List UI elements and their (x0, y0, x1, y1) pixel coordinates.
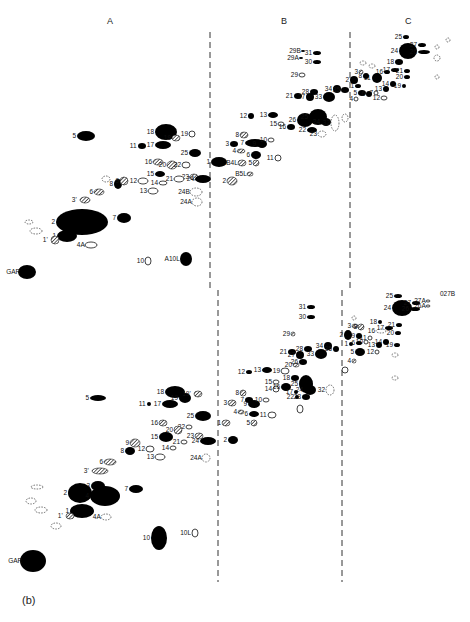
spot-label: 15 (147, 170, 155, 177)
spot-5-solid (355, 348, 365, 356)
spot-label: 26 (289, 116, 297, 123)
spot-unlabeled-dashed (35, 507, 47, 513)
spot-19-open (189, 131, 195, 137)
spot-12-open (146, 446, 154, 452)
spot-label: 20 (159, 161, 167, 168)
spot-label: 16 (151, 419, 159, 426)
spot-label: 15 (265, 378, 273, 385)
section-label-b: B (281, 16, 287, 26)
spot-20-solid (395, 331, 401, 335)
spot-GAR-solid (20, 550, 46, 572)
spot-label: 25 (181, 149, 189, 156)
spot-25-solid (394, 294, 402, 298)
spot-label: 32 (323, 119, 331, 126)
spot-label: 26A (414, 302, 426, 309)
spot-10-open (268, 138, 274, 142)
spot-label: 30 (305, 58, 313, 65)
spot-label: 12 (240, 112, 248, 119)
spot-13-solid (383, 86, 389, 92)
spot-unlabeled-dashed (392, 353, 398, 357)
spot-25-solid (189, 149, 201, 157)
spot-30-solid (307, 315, 315, 319)
spot-4-hatched (237, 149, 245, 153)
spot-label: 5 (350, 348, 354, 355)
spot-label: 27 (410, 41, 418, 48)
spot-label: 20 (387, 329, 395, 336)
spot-B5L-hatched (247, 172, 253, 176)
spot-label: 14 (265, 385, 273, 392)
spot-label: 1' (58, 512, 63, 519)
spot-3-hatched (80, 197, 90, 203)
gel-map-figure: A B C 5181919111725162022152324211214132… (0, 0, 470, 622)
spot-10L-open (192, 529, 198, 537)
spot-13-solid (376, 342, 382, 348)
spot-label: 25 (395, 33, 403, 40)
spot-label: 5 (248, 159, 252, 166)
spot-1-solid (355, 84, 361, 88)
spot-17-solid (155, 141, 171, 149)
spot-label: 12 (130, 177, 138, 184)
spot-label: 20 (396, 73, 404, 80)
spot-24-solid (195, 175, 211, 183)
spot-4-hatched (352, 359, 356, 363)
spot-32-dashed (331, 115, 339, 131)
spot-label: 31 (299, 303, 307, 310)
spot-21-solid (396, 323, 402, 327)
spot-21-open (181, 440, 187, 444)
spot-29-hatched (291, 332, 295, 336)
spot-14-open (159, 181, 167, 185)
spot-27A-open (426, 300, 430, 302)
spot-label: 17 (147, 141, 155, 148)
spot-16-solid (287, 124, 295, 130)
spot-label: 3 (354, 68, 358, 75)
spot-label: 13 (368, 341, 376, 348)
spot-4A-open (85, 242, 97, 248)
spot-label: 8 (353, 323, 357, 330)
spot-label: 14 (151, 179, 159, 186)
spot-label: 27 (288, 351, 296, 358)
spot-label: 2 (345, 76, 349, 83)
spot-label: 15 (151, 433, 159, 440)
spot-label: 21 (388, 321, 396, 328)
spot-label: 19 (164, 134, 172, 141)
spot-unlabeled-dashed (446, 38, 450, 42)
spot-unlabeled-dashed (25, 220, 33, 224)
spot-8-solid (125, 447, 135, 455)
spot-label: 9 (252, 140, 256, 147)
spot-label: 24 (313, 118, 321, 125)
spot-11-open (275, 155, 281, 161)
spot-6-solid (356, 341, 362, 345)
spot-1-solid (57, 230, 77, 242)
spot-label: 4 (347, 357, 351, 364)
spot-label: 7 (240, 139, 244, 146)
spot-label: GAR (8, 557, 22, 564)
spot-GAR-solid (18, 265, 36, 279)
spot-label: 16 (279, 123, 287, 130)
spot-10-open (145, 257, 151, 265)
spot-label: 13 (147, 453, 155, 460)
spot-unlabeled-dashed (31, 485, 43, 489)
section-label-a: A (107, 16, 113, 26)
spot-22-open (182, 162, 190, 168)
spot-12-open (381, 96, 387, 100)
spot-label: 5 (72, 132, 76, 139)
spot-label: 29B (289, 47, 301, 54)
spot-label: 17 (286, 388, 294, 395)
spot-label: 1' (43, 236, 48, 243)
spot-7-solid (117, 213, 131, 223)
spot-1-hatched (66, 513, 74, 519)
spot-10-open (263, 398, 269, 402)
spot-label: 24 (391, 47, 399, 54)
spot-label: 25 (301, 113, 309, 120)
spot-label: 2 (63, 489, 67, 496)
spot-label: 13 (140, 187, 148, 194)
spot-24A-dashed (192, 198, 202, 206)
spot-label: 21 (166, 175, 174, 182)
spot-16-hatched (159, 420, 167, 426)
spot-label: 35 (333, 86, 341, 93)
spot-label: 17 (154, 400, 162, 407)
spot-label: 6 (246, 151, 250, 158)
spot-14-solid (390, 81, 396, 87)
spot-6-hatched (104, 459, 116, 465)
spot-6-solid (249, 411, 259, 417)
